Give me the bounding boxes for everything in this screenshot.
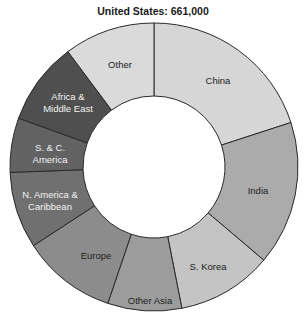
segment-label: S. & C.America [33, 142, 69, 165]
segment-label: Other Asia [128, 295, 173, 306]
donut-segments [10, 23, 298, 311]
segment-label: Other [108, 59, 132, 70]
donut-chart: ChinaIndiaS. KoreaOther AsiaEuropeN. Ame… [0, 0, 306, 320]
segment-label: China [206, 75, 232, 86]
segment-label: Europe [81, 250, 112, 261]
segment-label: S. Korea [190, 261, 228, 272]
segment-label: India [248, 185, 269, 196]
segment-label: N. America &Caribbean [22, 189, 78, 212]
